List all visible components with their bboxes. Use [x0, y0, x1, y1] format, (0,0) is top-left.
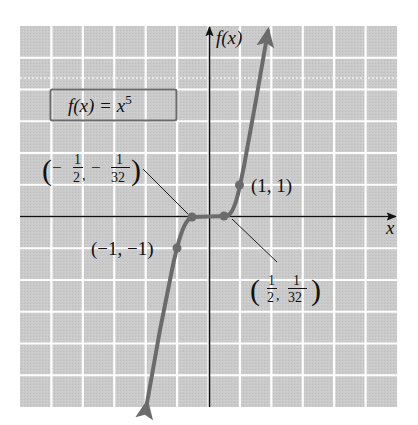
svg-text:(: (: [250, 273, 260, 307]
point-neg-one: [173, 244, 182, 253]
svg-text:−: −: [52, 158, 62, 177]
svg-text:1: 1: [116, 152, 123, 167]
point-one: [235, 181, 244, 190]
svg-text:32: 32: [288, 290, 302, 305]
svg-text:1: 1: [74, 152, 81, 167]
x-axis-label: x: [385, 217, 395, 238]
svg-text:32: 32: [111, 170, 125, 185]
svg-text:,: ,: [82, 168, 86, 183]
annotation-one-one: (1, 1): [251, 175, 292, 197]
svg-text:,: ,: [276, 288, 280, 303]
svg-text:−: −: [91, 158, 101, 177]
point-pos-half: [220, 212, 229, 221]
svg-text:): ): [311, 273, 321, 307]
function-label: f(x) = x: [68, 95, 126, 117]
svg-text:): ): [131, 153, 141, 187]
chart: x f(x) f(x) = x5 (1, 1) (−1, −1) ( − 1 2…: [0, 0, 418, 425]
svg-text:1: 1: [293, 273, 300, 288]
svg-text:(: (: [42, 153, 52, 187]
svg-text:f(x) = x5: f(x) = x5: [68, 92, 132, 117]
y-axis-label: f(x): [216, 27, 242, 49]
point-neg-half: [188, 213, 197, 222]
svg-text:2: 2: [73, 170, 80, 185]
annotation-neg-one-neg-one: (−1, −1): [91, 238, 154, 260]
svg-text:2: 2: [267, 290, 274, 305]
function-exponent: 5: [125, 92, 132, 107]
svg-text:1: 1: [268, 273, 275, 288]
